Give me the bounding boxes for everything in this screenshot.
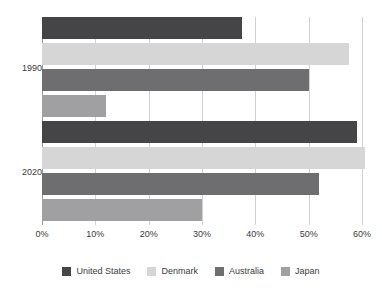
x-axis-tick-50: 50% <box>300 229 318 239</box>
legend-swatch-denmark <box>147 267 156 276</box>
y-axis-label-1990: 1990 <box>0 63 42 73</box>
legend-swatch-australia <box>215 267 224 276</box>
chart-title <box>0 0 382 2</box>
plot-area <box>42 17 362 225</box>
bar-australia-2020 <box>42 173 319 195</box>
bar-series-container <box>42 17 362 225</box>
bar-chart: 19902020 0%10%20%30%40%50%60% United Sta… <box>0 0 382 295</box>
legend-item-australia[interactable]: Australia <box>215 266 264 276</box>
x-axis-tick-30: 30% <box>193 229 211 239</box>
x-axis-tick-40: 40% <box>246 229 264 239</box>
legend-item-japan[interactable]: Japan <box>281 266 320 276</box>
bar-denmark-1990 <box>42 43 349 65</box>
legend-swatch-japan <box>281 267 290 276</box>
bar-japan-1990 <box>42 95 106 117</box>
legend-item-denmark[interactable]: Denmark <box>147 266 198 276</box>
bar-japan-2020 <box>42 199 202 221</box>
bar-denmark-2020 <box>42 147 365 169</box>
legend-swatch-united-states <box>62 267 71 276</box>
bar-australia-1990 <box>42 69 309 91</box>
gridline-60 <box>362 17 363 225</box>
x-axis-tick-labels: 0%10%20%30%40%50%60% <box>42 229 362 243</box>
legend-label-united-states: United States <box>76 266 130 276</box>
bar-united-states-2020 <box>42 121 357 143</box>
y-axis-label-2020: 2020 <box>0 167 42 177</box>
legend-label-japan: Japan <box>295 266 320 276</box>
legend-item-united-states[interactable]: United States <box>62 266 130 276</box>
x-axis-tick-0: 0% <box>35 229 48 239</box>
bar-united-states-1990 <box>42 17 242 39</box>
x-axis-tick-10: 10% <box>86 229 104 239</box>
chart-legend: United StatesDenmarkAustraliaJapan <box>0 266 382 276</box>
legend-label-denmark: Denmark <box>161 266 198 276</box>
x-axis-tick-20: 20% <box>140 229 158 239</box>
legend-label-australia: Australia <box>229 266 264 276</box>
x-axis-tick-60: 60% <box>353 229 371 239</box>
